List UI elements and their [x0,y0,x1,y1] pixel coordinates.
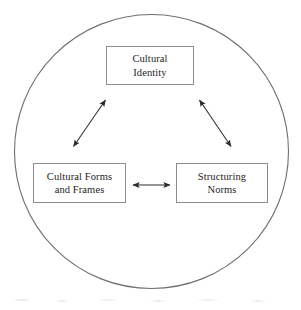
scan-artifact-band [0,296,301,305]
node-structuring-norms: Structuring Norms [176,163,268,203]
connector-identity-to-norms [200,100,232,147]
node-structuring-norms-line-2: Norms [207,183,236,196]
node-cultural-forms-line-2: and Frames [55,183,105,196]
node-structuring-norms-line-1: Structuring [198,170,246,183]
node-cultural-forms-line-1: Cultural Forms [47,170,112,183]
connector-identity-to-forms [74,100,106,147]
diagram-canvas: Cultural Identity Cultural Forms and Fra… [0,0,301,310]
node-cultural-identity: Cultural Identity [106,46,194,85]
node-cultural-forms-and-frames: Cultural Forms and Frames [33,163,126,203]
node-cultural-identity-line-2: Identity [133,66,166,79]
node-cultural-identity-line-1: Cultural [132,52,167,65]
